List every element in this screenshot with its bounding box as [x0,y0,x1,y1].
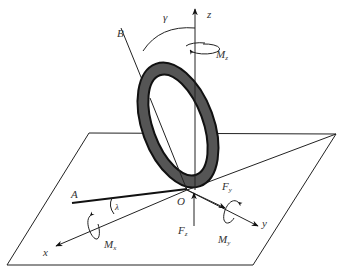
gamma-arc [143,28,195,51]
label-fz: Fz [177,224,188,238]
mx-rotation-icon [88,216,100,239]
tire [122,52,234,199]
label-gamma: γ [163,11,168,23]
lambda-arc [110,198,114,214]
label-my: My [217,233,231,247]
fy-arrow [187,190,225,208]
label-a: A [70,188,78,200]
label-y: y [261,217,267,229]
label-fy: Fy [221,180,233,194]
label-mx: Mx [103,238,117,252]
label-z: z [206,8,212,20]
tire-coordinate-diagram: z γ B Mz A λ x Mx O Fy Fz My y [0,0,343,277]
label-b: B [117,27,124,39]
label-x: x [42,246,48,258]
label-lambda: λ [114,202,119,212]
label-o: O [177,195,185,207]
label-mz: Mz [215,48,228,62]
a-line [72,189,187,203]
